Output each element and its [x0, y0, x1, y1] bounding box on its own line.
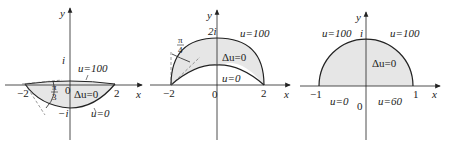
tick-2-1: 2 — [114, 87, 120, 99]
tick-neg2-2: −2 — [163, 87, 175, 99]
y-label-2: y — [206, 9, 212, 21]
label-u100-right-3: u=100 — [390, 27, 420, 39]
y-label-3: y — [355, 11, 361, 23]
tick-2i-2: 2i — [208, 25, 217, 37]
angle-num-2: π — [178, 35, 183, 45]
region-2 — [171, 38, 264, 85]
y-label-1: y — [59, 7, 65, 19]
angle-den-1: 3 — [52, 92, 57, 102]
diagram-root: y x 0 −2 2 i −i π 3 u=100 Δu=0 u=0 y x 0… — [0, 0, 449, 150]
tick-i-3: i — [360, 27, 363, 39]
tick-1-3: 1 — [413, 88, 419, 100]
x-label-3: x — [431, 88, 437, 100]
angle-den-2: 4 — [178, 45, 183, 55]
three-panel-diagram: y x 0 −2 2 i −i π 3 u=100 Δu=0 u=0 y x 0… — [0, 0, 449, 150]
equation-2: Δu=0 — [222, 51, 247, 63]
origin-3: 0 — [357, 100, 363, 112]
label-u0-2: u=0 — [222, 72, 241, 84]
label-u100-1: u=100 — [78, 62, 108, 74]
panel-1: y x 0 −2 2 i −i π 3 u=100 Δu=0 u=0 — [5, 7, 142, 140]
label-u0-3: u=0 — [330, 95, 349, 107]
panel-3: y x 0 −1 1 i u=100 u=100 Δu=0 u=0 u=60 — [300, 11, 440, 140]
tick-neg2-1: −2 — [17, 87, 29, 99]
x-label-2: x — [283, 88, 289, 100]
panel-2: y x 0 −2 2 2i π 4 u=100 Δu=0 u=0 — [150, 9, 290, 140]
tick-2-2: 2 — [261, 87, 267, 99]
label-u100-2: u=100 — [240, 27, 270, 39]
equation-3: Δu=0 — [372, 57, 397, 69]
label-u0-1: u=0 — [91, 107, 110, 119]
angle-num-1: π — [52, 82, 57, 92]
tick-neg1-3: −1 — [310, 88, 322, 100]
origin-2: 0 — [212, 88, 218, 100]
label-u100-left-3: u=100 — [322, 27, 352, 39]
equation-1: Δu=0 — [74, 88, 99, 100]
x-label-1: x — [135, 88, 141, 100]
tick-negi-1: −i — [58, 107, 68, 119]
label-u60-3: u=60 — [378, 95, 402, 107]
tick-i-1: i — [62, 54, 65, 66]
origin-1: 0 — [65, 84, 71, 96]
